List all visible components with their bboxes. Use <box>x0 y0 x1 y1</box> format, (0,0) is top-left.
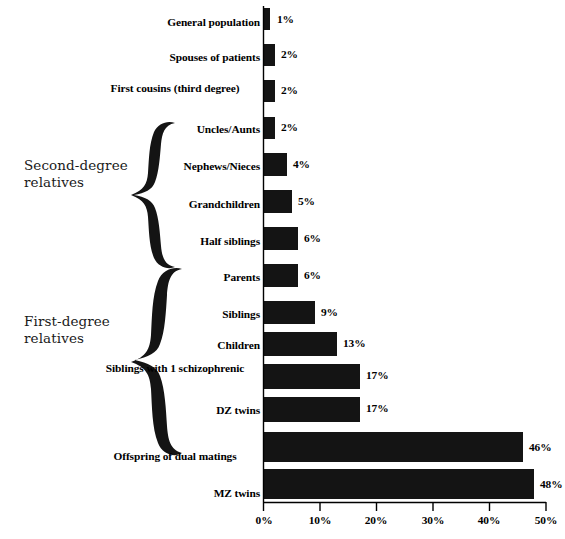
category-label: DZ twins <box>10 404 260 418</box>
bar <box>264 44 275 66</box>
bar <box>264 190 292 213</box>
bar-value-label: 2% <box>281 84 298 96</box>
bar <box>264 153 287 176</box>
bar <box>264 364 360 389</box>
brace-second-degree <box>128 120 180 274</box>
bar-value-label: 13% <box>343 337 365 349</box>
bar-value-label: 6% <box>304 269 321 281</box>
x-axis-tick-label: 0% <box>244 514 284 526</box>
category-label: General population <box>10 16 260 30</box>
bar <box>264 469 534 499</box>
bar <box>264 227 298 250</box>
category-label: MZ twins <box>10 487 260 501</box>
bar <box>264 397 360 422</box>
bar <box>264 117 275 139</box>
bar-value-label: 1% <box>277 13 294 25</box>
bar <box>264 8 270 30</box>
category-label: Nephews/Nieces <box>10 160 260 174</box>
category-label: Grandchildren <box>10 198 260 212</box>
bar-chart: Second-degree relatives First-degree rel… <box>0 0 565 539</box>
category-label: Siblings with 1 schizophrenic <box>90 362 260 376</box>
category-label: Parents <box>10 271 260 285</box>
bar <box>264 301 315 324</box>
bar-value-label: 2% <box>281 121 298 133</box>
bar <box>264 332 337 356</box>
category-label: Uncles/Aunts <box>10 123 260 137</box>
bar-value-label: 9% <box>321 306 338 318</box>
bar-value-label: 2% <box>281 48 298 60</box>
category-label: Children <box>10 339 260 353</box>
category-label: Spouses of patients <box>10 51 260 65</box>
x-axis-tick-label: 50% <box>526 514 565 526</box>
bar-value-label: 4% <box>293 158 310 170</box>
bar-value-label: 5% <box>298 195 315 207</box>
bar <box>264 432 523 462</box>
category-label: Half siblings <box>10 235 260 249</box>
category-label: First cousins (third degree) <box>90 82 260 96</box>
bar-value-label: 48% <box>540 478 562 490</box>
x-axis-tick-label: 40% <box>469 514 509 526</box>
bar-value-label: 17% <box>366 402 388 414</box>
bar <box>264 80 275 102</box>
bar-value-label: 6% <box>304 232 321 244</box>
x-axis-tick-label: 10% <box>300 514 340 526</box>
bar-value-label: 17% <box>366 369 388 381</box>
x-axis-tick-label: 20% <box>356 514 396 526</box>
category-label: Offspring of dual matings <box>90 450 260 464</box>
category-label: Siblings <box>10 308 260 322</box>
bar <box>264 264 298 287</box>
x-axis-tick-label: 30% <box>413 514 453 526</box>
bar-value-label: 46% <box>529 441 551 453</box>
